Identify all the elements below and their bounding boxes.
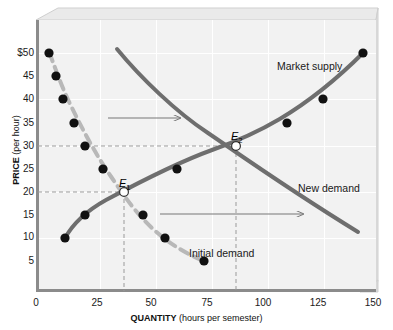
x-axis-title: QUANTITY (hours per semester): [0, 313, 393, 323]
x-tick-label: 100: [243, 298, 283, 308]
market-supply-curve: [65, 52, 364, 238]
data-point: [98, 164, 107, 173]
data-point: [58, 94, 67, 103]
y-tick-label: 10: [23, 232, 34, 242]
y-tick-label: 30: [23, 141, 34, 151]
initial-demand-label: Initial demand: [189, 247, 254, 259]
y-tick-label: 25: [23, 164, 34, 174]
eq-subscript: 1: [126, 183, 130, 192]
equilibrium-label-e2: E2: [231, 130, 243, 145]
y-tick-label: 5: [28, 256, 34, 266]
y-tick-label: 40: [23, 94, 34, 104]
data-point: [51, 71, 60, 80]
x-tick-label: 25: [77, 298, 117, 308]
x-tick-label: 0: [16, 298, 56, 308]
x-tick-label: 150: [353, 298, 393, 308]
y-axis-title-rest: (per hour): [11, 115, 21, 157]
x-tick-label: 125: [298, 298, 338, 308]
data-point: [160, 233, 169, 242]
data-point: [80, 210, 89, 219]
data-point: [172, 164, 181, 173]
x-tick-label: 75: [187, 298, 227, 308]
chart-plot-svg: [0, 0, 393, 330]
y-tick-label: 20: [23, 187, 34, 197]
data-point: [80, 141, 89, 150]
x-axis-ticks: 0 25 50 75 100 125 150: [0, 298, 393, 312]
y-axis-title: PRICE (per hour): [11, 95, 21, 205]
data-point: [282, 118, 291, 127]
x-axis-title-strong: QUANTITY: [130, 313, 176, 323]
y-tick-label: 15: [23, 210, 34, 220]
x-axis-title-rest: (hours per semester): [176, 313, 262, 323]
y-tick-label: 45: [23, 71, 34, 81]
data-point: [44, 48, 53, 57]
x-tick-label: 50: [131, 298, 171, 308]
guide-lines: [38, 146, 236, 291]
data-point: [318, 94, 327, 103]
data-point: [138, 210, 147, 219]
y-tick-label: $50: [17, 48, 34, 58]
data-point: [60, 233, 69, 242]
eq-subscript: 2: [238, 136, 242, 145]
y-axis-title-strong: PRICE: [11, 157, 21, 185]
data-point: [358, 48, 367, 57]
chart-figure: E1 E2 Market supply New demand Initial d…: [0, 0, 393, 330]
new-demand-label: New demand: [298, 182, 360, 194]
equilibrium-label-e1: E1: [119, 177, 131, 192]
y-tick-label: 35: [23, 118, 34, 128]
data-point: [69, 118, 78, 127]
market-supply-label: Market supply: [277, 60, 342, 72]
